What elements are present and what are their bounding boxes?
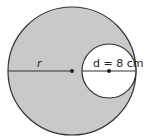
- diameter-label: d = 8 cm: [93, 57, 143, 70]
- circle-diagram: r d = 8 cm: [0, 0, 152, 137]
- outer-center-point: [70, 69, 74, 73]
